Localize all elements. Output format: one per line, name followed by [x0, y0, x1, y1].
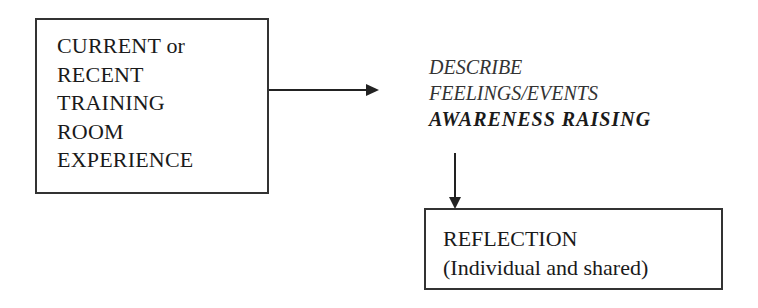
describe-label: DESCRIBE	[429, 54, 651, 80]
awareness-raising-label: AWARENESS RAISING	[429, 106, 651, 132]
describe-stage: DESCRIBE FEELINGS/EVENTS AWARENESS RAISI…	[429, 54, 651, 132]
feelings-events-label: FEELINGS/EVENTS	[429, 80, 651, 106]
reflection-box: REFLECTION (Individual and shared)	[424, 208, 723, 290]
arrow-right-icon	[269, 84, 379, 96]
arrow-down-icon	[449, 153, 461, 209]
reflection-title: REFLECTION	[443, 224, 721, 253]
reflection-subtitle: (Individual and shared)	[443, 253, 721, 282]
